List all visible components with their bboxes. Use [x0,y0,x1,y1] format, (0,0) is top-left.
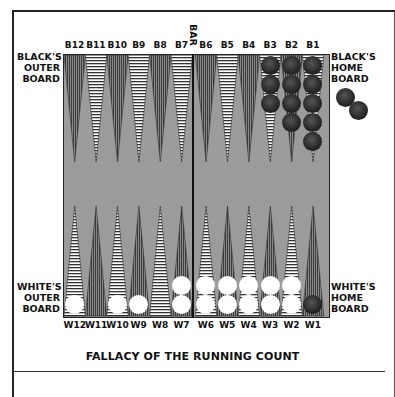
point-b12 [64,55,85,162]
black-home-board-label: BLACK'S HOME BOARD [331,51,386,84]
point-label-b9: B9 [128,40,150,50]
black-outer-board-label: BLACK'S OUTER BOARD [17,51,60,84]
point-w11 [85,206,106,316]
point-b7 [171,55,192,162]
point-label-b10: B10 [106,40,128,50]
point-b10 [107,55,128,162]
black-checker-b2 [282,94,301,113]
point-label-b8: B8 [149,40,171,50]
point-b6 [195,55,216,162]
black-checker-b3 [261,75,280,94]
white-checker-w7 [172,295,191,314]
white-checker-w7 [172,276,191,295]
point-label-b11: B11 [85,40,107,50]
white-checker-w5 [218,295,237,314]
point-label-w3: W3 [259,320,281,330]
white-checker-w3 [261,295,280,314]
point-label-b3: B3 [259,40,281,50]
white-checker-w3 [261,276,280,295]
black-checker-b3 [261,56,280,75]
black-checker-b2 [282,56,301,75]
point-b5 [217,55,238,162]
point-label-w12: W12 [64,320,86,330]
white-checker-w10 [108,295,127,314]
point-label-b4: B4 [238,40,260,50]
point-w8 [150,206,171,316]
point-b11 [85,55,106,162]
point-label-b6: B6 [195,40,217,50]
point-label-b7: B7 [171,40,193,50]
white-outer-board-label: WHITE'S OUTER BOARD [17,281,60,314]
point-label-b12: B12 [64,40,86,50]
point-b9 [128,55,149,162]
point-label-w5: W5 [216,320,238,330]
point-b8 [150,55,171,162]
white-home-board-label: WHITE'S HOME BOARD [331,281,386,314]
white-checker-w12 [65,295,84,314]
point-label-w6: W6 [195,320,217,330]
point-label-w10: W10 [106,320,128,330]
white-checker-w5 [218,276,237,295]
black-checker-borne-off [349,101,368,120]
black-checker-b2 [282,113,301,132]
point-label-w4: W4 [238,320,260,330]
white-checker-w2 [282,295,301,314]
point-label-w7: W7 [171,320,193,330]
bar [192,54,194,318]
point-label-w9: W9 [128,320,150,330]
white-checker-w2 [282,276,301,295]
point-label-w2: W2 [281,320,303,330]
point-label-b1: B1 [302,40,324,50]
point-label-w11: W11 [85,320,107,330]
point-label-b2: B2 [281,40,303,50]
point-b4 [238,55,259,162]
black-checker-b3 [261,94,280,113]
black-checker-b2 [282,75,301,94]
divider [12,371,385,372]
point-label-b5: B5 [216,40,238,50]
point-label-w1: W1 [302,320,324,330]
figure-title: FALLACY OF THE RUNNING COUNT [0,350,385,363]
point-label-w8: W8 [149,320,171,330]
